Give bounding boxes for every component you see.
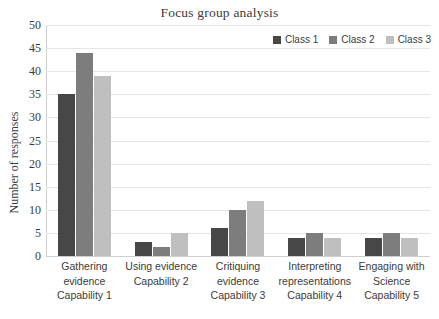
y-axis-tick-labels: 50454035302520151050 [0,25,41,256]
y-tick-label-30: 30 [1,111,41,123]
plot-area [46,25,430,256]
bar-group-5 [353,25,430,256]
y-tick-label-10: 10 [1,204,41,216]
bar-class-2-cat5[interactable] [383,233,400,256]
bar-class-1-cat2[interactable] [135,242,152,256]
bar-group-2 [123,25,200,256]
bar-class-2-cat1[interactable] [76,53,93,256]
y-tick-label-40: 40 [1,65,41,77]
bar-class-2-cat2[interactable] [153,247,170,256]
gridline-0 [46,256,430,257]
y-tick-label-25: 25 [1,135,41,147]
x-axis-category-labels: GatheringevidenceCapability 1Using evide… [46,259,430,317]
bar-class-1-cat3[interactable] [211,228,228,256]
bar-class-2-cat4[interactable] [306,233,323,256]
bar-class-1-cat1[interactable] [58,94,75,256]
bar-class-3-cat2[interactable] [171,233,188,256]
y-tick-label-50: 50 [1,19,41,31]
bar-class-1-cat4[interactable] [288,238,305,256]
y-tick-label-45: 45 [1,42,41,54]
bar-class-2-cat3[interactable] [229,210,246,256]
bar-class-3-cat5[interactable] [401,238,418,256]
y-tick-label-5: 5 [1,227,41,239]
bar-class-3-cat3[interactable] [247,201,264,256]
y-tick-label-35: 35 [1,88,41,100]
bar-class-3-cat1[interactable] [94,76,111,256]
category-label-5: Engaging withScienceCapability 5 [345,259,438,303]
bar-group-4 [276,25,353,256]
bar-group-3 [200,25,277,256]
bar-class-1-cat5[interactable] [365,238,382,256]
category-label-line: Capability 5 [345,288,438,303]
y-tick-label-0: 0 [1,250,41,262]
bar-group-1 [46,25,123,256]
category-label-line: Science [345,274,438,289]
category-label-line: Engaging with [345,259,438,274]
focus-group-analysis-chart: Focus group analysis Class 1Class 2Class… [0,0,439,319]
y-tick-label-15: 15 [1,181,41,193]
chart-title: Focus group analysis [0,5,439,21]
y-tick-label-20: 20 [1,158,41,170]
bar-class-3-cat4[interactable] [324,238,341,256]
category-label-line: Capability 1 [38,288,131,303]
